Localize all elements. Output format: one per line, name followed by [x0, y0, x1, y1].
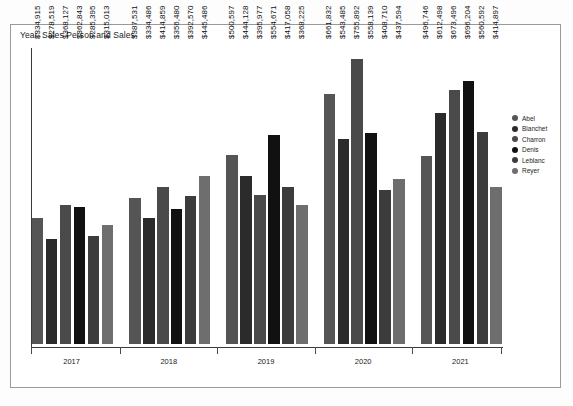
bar-2020-Leblanc[interactable]: $408,710 — [379, 42, 390, 344]
bar-value-label: $408,710 — [381, 6, 389, 39]
bar-value-label: $755,892 — [353, 6, 361, 39]
bar-2021-Abel[interactable]: $496,746 — [421, 42, 432, 344]
bar-rect[interactable] — [463, 81, 474, 344]
bar-group-2021: $496,746$612,498$673,496$696,204$560,592… — [421, 42, 502, 344]
bar-rect[interactable] — [435, 113, 446, 344]
bar-rect[interactable] — [351, 59, 362, 344]
legend: AbelBlanchetCharronDenisLeblancReyer — [512, 113, 568, 176]
bar-rect[interactable] — [379, 190, 390, 344]
bar-rect[interactable] — [254, 195, 265, 344]
x-axis-ticks: 20172018201920202021 — [31, 347, 503, 369]
bar-rect[interactable] — [365, 133, 376, 344]
bar-rect[interactable] — [129, 198, 140, 344]
legend-swatch-icon — [512, 157, 518, 163]
bar-2019-Charron[interactable]: $395,977 — [254, 42, 265, 344]
bar-2018-Leblanc[interactable]: $392,570 — [185, 42, 196, 344]
bar-value-label: $560,592 — [478, 6, 486, 39]
bar-rect[interactable] — [60, 205, 71, 344]
bar-2017-Reyer[interactable]: $315,013 — [102, 42, 113, 344]
bar-value-label: $368,225 — [298, 6, 306, 39]
legend-swatch-icon — [512, 115, 518, 121]
bar-2018-Abel[interactable]: $387,531 — [129, 42, 140, 344]
bar-rect[interactable] — [240, 176, 251, 344]
bar-rect[interactable] — [199, 176, 210, 344]
bar-rect[interactable] — [185, 196, 196, 344]
legend-item-blanchet[interactable]: Blanchet — [512, 124, 568, 135]
x-axis-label-2019: 2019 — [258, 357, 275, 366]
bar-rect[interactable] — [102, 225, 113, 344]
bar-rect[interactable] — [449, 90, 460, 344]
bar-2021-Charron[interactable]: $673,496 — [449, 42, 460, 344]
bar-2017-Denis[interactable]: $362,843 — [74, 42, 85, 344]
bar-2017-Charron[interactable]: $368,127 — [60, 42, 71, 344]
bar-rect[interactable] — [393, 179, 404, 344]
bar-2018-Reyer[interactable]: $445,486 — [199, 42, 210, 344]
x-axis-label-2017: 2017 — [63, 357, 80, 366]
bar-value-label: $368,127 — [62, 6, 70, 39]
legend-item-leblanc[interactable]: Leblanc — [512, 155, 568, 166]
bar-value-label: $554,671 — [270, 6, 278, 39]
legend-label: Abel — [522, 115, 535, 122]
bar-2018-Denis[interactable]: $356,480 — [171, 42, 182, 344]
bar-2017-Abel[interactable]: $334,915 — [32, 42, 43, 344]
bar-rect[interactable] — [338, 139, 349, 344]
bar-rect[interactable] — [32, 218, 43, 344]
bar-value-label: $414,859 — [159, 6, 167, 39]
bar-value-label: $612,498 — [436, 6, 444, 39]
bar-group-2018: $387,531$334,486$414,859$356,480$392,570… — [129, 42, 210, 344]
bar-2018-Charron[interactable]: $414,859 — [157, 42, 168, 344]
legend-swatch-icon — [512, 168, 518, 174]
legend-item-denis[interactable]: Denis — [512, 145, 568, 156]
axis-tick — [501, 347, 502, 354]
bar-rect[interactable] — [324, 94, 335, 344]
bar-rect[interactable] — [88, 236, 99, 344]
bar-2020-Abel[interactable]: $661,832 — [324, 42, 335, 344]
bar-value-label: $543,485 — [339, 6, 347, 39]
bar-rect[interactable] — [226, 155, 237, 344]
legend-item-reyer[interactable]: Reyer — [512, 166, 568, 177]
bar-group-2019: $500,597$444,128$395,977$554,671$417,058… — [226, 42, 307, 344]
bar-value-label: $285,395 — [89, 6, 97, 39]
bar-2017-Blanchet[interactable]: $278,519 — [46, 42, 57, 344]
bar-rect[interactable] — [490, 187, 501, 344]
bar-2017-Leblanc[interactable]: $285,395 — [88, 42, 99, 344]
axis-tick — [412, 347, 413, 354]
bar-rect[interactable] — [296, 205, 307, 344]
legend-item-abel[interactable]: Abel — [512, 113, 568, 124]
legend-swatch-icon — [512, 136, 518, 142]
legend-swatch-icon — [512, 126, 518, 132]
bar-2021-Leblanc[interactable]: $560,592 — [477, 42, 488, 344]
bar-2020-Charron[interactable]: $755,892 — [351, 42, 362, 344]
bar-value-label: $392,570 — [187, 6, 195, 39]
bar-2021-Denis[interactable]: $696,204 — [463, 42, 474, 344]
bar-2021-Blanchet[interactable]: $612,498 — [435, 42, 446, 344]
legend-label: Leblanc — [522, 157, 545, 164]
bar-rect[interactable] — [268, 135, 279, 344]
bar-2020-Reyer[interactable]: $437,594 — [393, 42, 404, 344]
bar-2020-Blanchet[interactable]: $543,485 — [338, 42, 349, 344]
bar-2021-Reyer[interactable]: $414,897 — [490, 42, 501, 344]
bar-rect[interactable] — [157, 187, 168, 344]
bar-2019-Abel[interactable]: $500,597 — [226, 42, 237, 344]
axis-tick — [120, 347, 121, 354]
bar-group-2020: $661,832$543,485$755,892$558,139$408,710… — [324, 42, 405, 344]
bar-rect[interactable] — [143, 218, 154, 344]
bar-rect[interactable] — [74, 207, 85, 344]
bar-2019-Reyer[interactable]: $368,225 — [296, 42, 307, 344]
bar-rect[interactable] — [282, 187, 293, 344]
bar-2019-Blanchet[interactable]: $444,128 — [240, 42, 251, 344]
bar-rect[interactable] — [477, 132, 488, 344]
legend-item-charron[interactable]: Charron — [512, 134, 568, 145]
bar-2019-Leblanc[interactable]: $417,058 — [282, 42, 293, 344]
bar-rect[interactable] — [171, 209, 182, 344]
bar-value-label: $278,519 — [48, 6, 56, 39]
bar-2018-Blanchet[interactable]: $334,486 — [143, 42, 154, 344]
bar-2019-Denis[interactable]: $554,671 — [268, 42, 279, 344]
bar-2020-Denis[interactable]: $558,139 — [365, 42, 376, 344]
axis-tick — [217, 347, 218, 354]
bar-rect[interactable] — [421, 156, 432, 344]
legend-swatch-icon — [512, 147, 518, 153]
bar-value-label: $356,480 — [173, 6, 181, 39]
bar-value-label: $445,486 — [201, 6, 209, 39]
bar-rect[interactable] — [46, 239, 57, 344]
